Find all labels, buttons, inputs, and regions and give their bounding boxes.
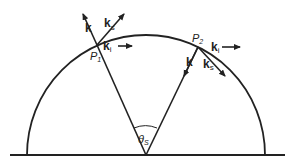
hemisphere-arc	[27, 35, 265, 155]
angle-arc	[134, 126, 157, 128]
p1-k-label: k	[85, 21, 92, 35]
p2-label: P2	[192, 32, 203, 45]
p1-ks-label: ks	[104, 16, 115, 32]
scattering-diagram: θS k ks ki P1 P2 ki k ks	[0, 0, 293, 163]
angle-label: θS	[138, 133, 149, 146]
p2-ks-label: ks	[203, 57, 214, 72]
p2-ki-label: ki	[211, 40, 220, 55]
p2-k-label: k	[186, 55, 193, 69]
